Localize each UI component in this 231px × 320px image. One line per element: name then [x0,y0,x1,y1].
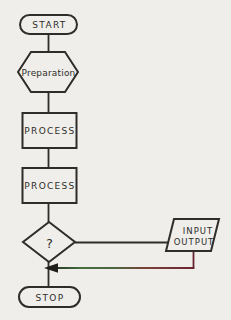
return-arrowhead-icon [44,263,58,273]
node-start-label: START [32,20,66,30]
node-process1-label: PROCESS [24,126,75,136]
node-io-label-line2: OUTPUT [174,237,215,247]
node-decision-label: ? [46,236,53,251]
flowchart-page: START Preparation PROCESS PROCESS ? INPU… [0,0,231,320]
node-stop-label: STOP [36,293,65,303]
node-io-label-line1: INPUT [183,226,213,236]
node-preparation-label: Preparation [22,68,76,78]
flowchart-diagram: START Preparation PROCESS PROCESS ? INPU… [0,0,231,320]
node-process2-label: PROCESS [24,181,75,191]
